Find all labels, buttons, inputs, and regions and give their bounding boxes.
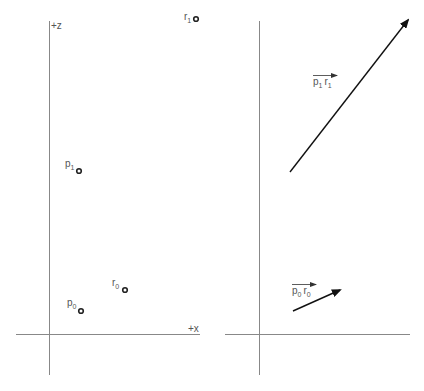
point-r1-marker: [194, 17, 199, 22]
z-axis-label: +z: [51, 21, 62, 31]
vector-p1-r1-from-sub: 1: [319, 82, 323, 89]
vector-p0-r0-to-sub: 0: [307, 291, 311, 298]
point-r0-sub: 0: [115, 283, 119, 290]
vector-p1-r1-label: p1r1: [313, 77, 332, 87]
point-p1-label: p1: [65, 159, 74, 169]
point-r0-marker: [123, 288, 128, 293]
point-p0-marker: [79, 309, 84, 314]
vector-p1-r1-to-sub: 1: [328, 82, 332, 89]
point-r1-sub: 1: [187, 17, 191, 24]
vector-label-arrows: [292, 76, 337, 285]
point-p1-sub: 1: [71, 164, 75, 171]
x-axis-label: +x: [188, 324, 199, 334]
point-r0-label: r0: [112, 278, 119, 288]
point-p0-label: p0: [67, 298, 76, 308]
point-r1-label: r1: [184, 12, 191, 22]
point-p0-sub: 0: [73, 303, 77, 310]
right-axes: [225, 21, 410, 375]
diagram-canvas: [0, 0, 424, 391]
point-p1-marker: [77, 169, 82, 174]
vector-p1-r1: [290, 20, 408, 172]
right-vectors: [290, 20, 408, 311]
vector-p0-r0-from-sub: 0: [298, 291, 302, 298]
left-axes: [16, 21, 200, 375]
vector-p0-r0-label: p0r0: [292, 286, 311, 296]
left-points: [77, 17, 199, 314]
